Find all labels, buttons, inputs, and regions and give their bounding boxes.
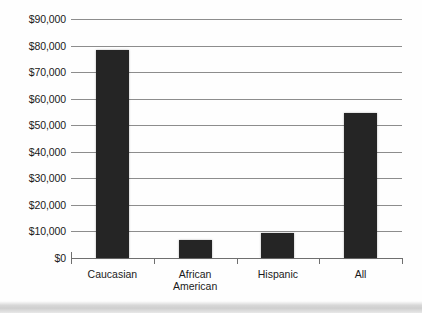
plot-area xyxy=(71,19,402,258)
bar xyxy=(261,233,294,258)
bar xyxy=(344,113,377,258)
chart-screenshot: $90,000 $80,000 $70,000 $60,000 $50,000 … xyxy=(0,0,422,313)
x-axis-category-label: African American xyxy=(154,268,237,292)
bar xyxy=(96,50,129,258)
x-axis-category-label: Caucasian xyxy=(71,268,154,280)
y-axis-tick-label: $50,000 xyxy=(4,119,66,131)
y-axis-tick-label: $80,000 xyxy=(4,40,66,52)
x-axis-tick xyxy=(402,258,403,264)
gridline xyxy=(71,19,402,20)
y-axis-tick-label: $10,000 xyxy=(4,225,66,237)
x-axis-tick xyxy=(319,258,320,264)
x-axis-tick xyxy=(71,258,72,264)
y-axis-tick-label: $30,000 xyxy=(4,172,66,184)
x-axis-category-label: All xyxy=(319,268,402,280)
y-axis-tick-label: $70,000 xyxy=(4,66,66,78)
scan-artifact-band xyxy=(0,301,422,313)
y-axis-labels: $90,000 $80,000 $70,000 $60,000 $50,000 … xyxy=(0,19,66,258)
y-axis-tick-label: $0 xyxy=(4,252,66,264)
gridline xyxy=(71,46,402,47)
x-axis-tick xyxy=(237,258,238,264)
y-axis-tick-label: $20,000 xyxy=(4,199,66,211)
bar-chart: $90,000 $80,000 $70,000 $60,000 $50,000 … xyxy=(0,0,422,300)
y-axis-tick-label: $60,000 xyxy=(4,93,66,105)
bar xyxy=(179,240,212,258)
x-axis-tick xyxy=(154,258,155,264)
y-axis-tick-label: $40,000 xyxy=(4,146,66,158)
y-axis-tick-label: $90,000 xyxy=(4,13,66,25)
x-axis-category-label: Hispanic xyxy=(237,268,320,280)
